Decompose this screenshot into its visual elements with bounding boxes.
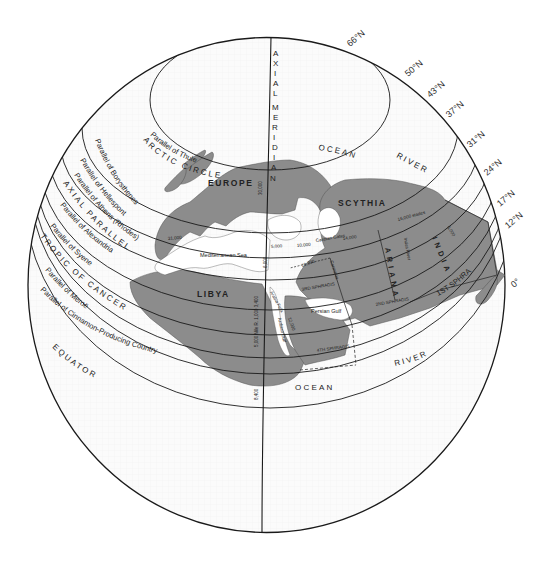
label-europe: EUROPE bbox=[208, 178, 254, 188]
label-persian-gulf: Persian Gulf bbox=[311, 308, 342, 314]
meridian-letter: E bbox=[273, 113, 278, 122]
nile-distances: 5,000 Nile R. 1,000 3,400 bbox=[254, 295, 259, 347]
eratosthenes-globe-map: A X I A L M E R I D I A N 66°N 50°N 43°N… bbox=[0, 0, 550, 565]
lat-label-50: 50°N bbox=[403, 58, 425, 79]
lat-label-31: 31°N bbox=[465, 129, 487, 150]
lat-label-37: 37°N bbox=[444, 99, 466, 120]
lat-label-17: 17°N bbox=[495, 188, 517, 209]
label-libya: LIBYA bbox=[197, 289, 230, 299]
meridian-letter: D bbox=[272, 143, 278, 152]
distance-30000: 30,000 bbox=[258, 181, 263, 195]
distance-6000-nile: 6,000 bbox=[263, 256, 268, 268]
meridian-letter: A bbox=[273, 79, 279, 88]
meridian-letter: R bbox=[272, 123, 278, 132]
meridian-letter: M bbox=[272, 103, 279, 112]
meridian-letter: N bbox=[270, 174, 276, 183]
meridian-letter: I bbox=[273, 133, 275, 142]
lat-label-24: 24°N bbox=[482, 157, 504, 178]
meridian-letter: X bbox=[273, 59, 279, 68]
distance-8400: 8,400 bbox=[254, 388, 259, 400]
label-scythia: SCYTHIA bbox=[338, 198, 387, 208]
meridian-letter: I bbox=[273, 153, 275, 162]
distance-5000: 5,000 bbox=[271, 243, 283, 249]
lat-label-66: 66°N bbox=[345, 28, 367, 49]
lat-label-12: 12°N bbox=[503, 210, 525, 231]
meridian-letter: A bbox=[271, 163, 277, 172]
lat-label-43: 43°N bbox=[425, 79, 447, 100]
meridian-letter: L bbox=[273, 89, 278, 98]
meridian-letter: I bbox=[274, 69, 276, 78]
label-ocean-south: OCEAN bbox=[295, 383, 334, 392]
lat-label-0: 0° bbox=[509, 276, 522, 289]
meridian-letter: A bbox=[273, 49, 279, 58]
label-mediterranean: Mediterranean Sea bbox=[200, 252, 248, 258]
